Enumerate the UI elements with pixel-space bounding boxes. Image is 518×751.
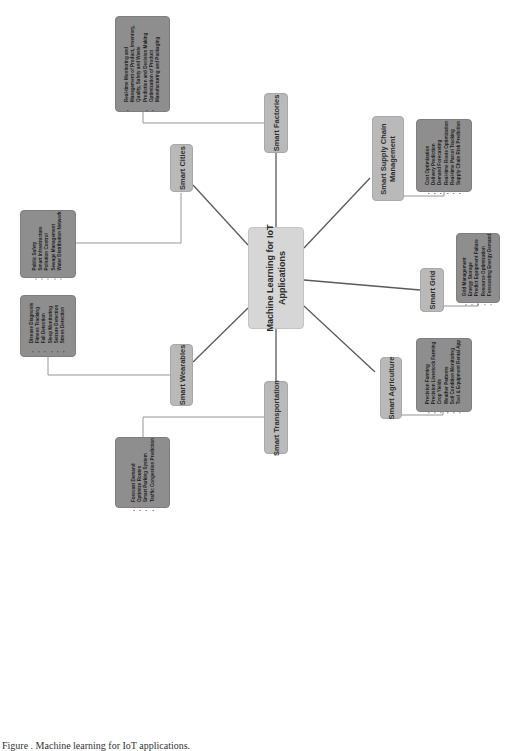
items-smart-factories: Real-time Monitoring and Management of P… [115, 16, 170, 112]
center-title-line2: Applications [276, 224, 288, 331]
items-smart-wearables: Disease Diagnosis Fitness Tracking Fall … [20, 295, 76, 357]
items-smart-transportation: Forecast Demand Optimize Routes Smart Pa… [115, 437, 170, 508]
item-list: Cost Optimization Delivery Prediction De… [425, 120, 462, 190]
branch-smart-cities: Smart Cities [170, 144, 193, 192]
branch-label: Smart Cities [177, 146, 186, 190]
branch-label: Smart Agriculture [387, 356, 396, 419]
branch-label-line1: Smart Supply Chain [379, 123, 388, 194]
item-list: Grid Management Energy Storage Predict E… [462, 234, 493, 302]
center-title-line1: Machine Learning for IoT [264, 224, 276, 331]
branch-smart-supply-chain: Smart Supply Chain Management [372, 116, 404, 201]
branch-label: Smart Wearables [177, 345, 186, 406]
list-item: Prediction and Decision Making [143, 20, 149, 102]
list-item: Optimize Routes [136, 437, 142, 501]
branch-label: Smart Grid [428, 271, 437, 310]
branch-smart-transportation: Smart Transportation [264, 381, 288, 454]
figure-caption: Figure . Machine learning for IoT applic… [2, 740, 190, 751]
branch-smart-wearables: Smart Wearables [170, 344, 193, 406]
list-item: Supply Chain Risk Prediction [456, 120, 462, 184]
list-item: Predict Equipment Failure [475, 234, 481, 296]
center-node: Machine Learning for IoT Applications [248, 227, 304, 329]
item-list: Precision Farming Precision Livestock Fa… [425, 340, 462, 410]
items-smart-supply-chain: Cost Optimization Delivery Prediction De… [416, 119, 472, 192]
item-list: Real-time Monitoring and Management of P… [124, 20, 161, 108]
items-smart-grid: Grid Management Energy Storage Predict E… [456, 233, 500, 303]
item-list: Disease Diagnosis Fitness Tracking Fall … [29, 303, 66, 350]
items-smart-agriculture: Precision Farming Precision Livestock Fa… [416, 338, 472, 412]
list-item: Real-time Route Optimization [444, 120, 450, 184]
branch-smart-factories: Smart Factories [264, 93, 288, 153]
branch-label-line2: Management [388, 123, 397, 194]
list-item: Forecast Demand [130, 437, 136, 501]
list-item: Water Distribution Network [57, 211, 63, 270]
list-item: Tool & Equipment Rental App [456, 340, 462, 404]
list-item: Forecasting Energy Demand [487, 234, 493, 296]
list-item: Traffic Congestion Prediction [149, 437, 155, 501]
branch-label: Smart Factories [272, 95, 281, 152]
item-list: Forecast Demand Optimize Routes Smart Pa… [130, 437, 155, 507]
list-item: Real-time Monitoring and Management of P… [124, 20, 143, 102]
branch-smart-agriculture: Smart Agriculture [380, 357, 402, 419]
list-item: Smart Parking System [143, 437, 149, 501]
mind-map-diagram: Machine Learning for IoT Applications Sm… [0, 0, 518, 751]
item-list: Public Safety Smart Infrastructure Pollu… [32, 211, 63, 276]
branch-smart-grid: Smart Grid [420, 268, 444, 312]
list-item: Optimization of Product Manufacturing an… [149, 20, 161, 102]
branch-label: Smart Transportation [272, 380, 281, 456]
list-item: Stress Detection [60, 303, 66, 344]
list-item: Sleep Monitoring [48, 303, 54, 344]
items-smart-cities: Public Safety Smart Infrastructure Pollu… [20, 210, 76, 278]
